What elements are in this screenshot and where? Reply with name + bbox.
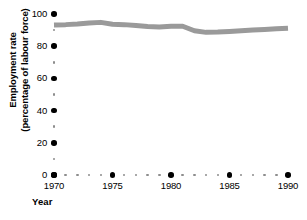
employment-rate-line [54, 22, 288, 32]
plot-area: 020406080100 19701975198019851990 [0, 0, 307, 220]
x-axis-title: Year [32, 196, 52, 207]
series-line-group [0, 0, 307, 220]
employment-rate-line-chart: Employment rate (percentage of labour fo… [0, 0, 307, 220]
